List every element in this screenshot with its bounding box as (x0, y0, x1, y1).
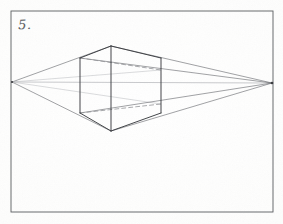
guide-left-vp-to-right-top (12, 70, 161, 82)
guide-right-vp-to-left-bottom (80, 83, 272, 113)
box-solid-edges (80, 46, 161, 131)
bottom-right-face-edge (111, 113, 161, 131)
perspective-drawing (0, 0, 283, 224)
right-vanishing-point (271, 82, 274, 85)
bottom-left-face-edge (80, 113, 111, 131)
exercise-number-label: 5. (18, 18, 32, 31)
drawing-page: 5. (0, 0, 283, 224)
horizon-line (12, 82, 272, 83)
hidden-edges (80, 58, 161, 113)
top-left-face-edge (80, 46, 111, 58)
drawing-border (11, 11, 273, 212)
guide-right-vp-to-bottom-apex (111, 83, 272, 131)
guide-right-vp-to-left-top (80, 58, 272, 83)
right-vanishing-guides (80, 46, 272, 131)
top-right-face-edge (111, 46, 161, 58)
hidden-bottom-back-edge-left (80, 104, 161, 113)
left-vanishing-point (11, 81, 13, 83)
